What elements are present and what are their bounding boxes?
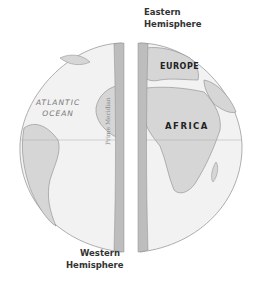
western-hemisphere-label: Western Hemisphere bbox=[66, 247, 120, 271]
western-hemisphere bbox=[20, 43, 124, 252]
western-label-line1: Western bbox=[66, 247, 120, 259]
hemispheres-diagram bbox=[0, 0, 255, 281]
atlantic-ocean-label: ATLANTIC OCEAN bbox=[36, 97, 80, 119]
eastern-label-line1: Eastern bbox=[144, 6, 202, 18]
europe-label: EUROPE bbox=[160, 62, 199, 71]
africa-label: AFRICA bbox=[165, 121, 209, 131]
eastern-hemisphere bbox=[138, 43, 242, 252]
atlantic-label-line2: OCEAN bbox=[36, 108, 80, 119]
atlantic-label-line1: ATLANTIC bbox=[36, 97, 80, 108]
western-label-line2: Hemisphere bbox=[66, 259, 120, 271]
prime-meridian-label: Prime Meridian bbox=[104, 97, 111, 145]
eastern-hemisphere-label: Eastern Hemisphere bbox=[144, 6, 202, 30]
eastern-label-line2: Hemisphere bbox=[144, 18, 202, 30]
